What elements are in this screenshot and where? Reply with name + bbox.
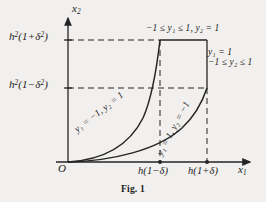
annotation-right-boundary: y₁ = 1 −1 ≤ y₂ ≤ 1 [208,48,252,68]
y-tick-label-lower: h2(1−δ2) [9,79,48,91]
x-tick-label-upper: h(1+δ) [188,165,218,176]
figure-caption: Fig. 1 [0,184,266,194]
x-tick-label-lower: h(1−δ) [138,165,168,176]
origin-label: O [58,163,66,175]
annotation-right-line2: −1 ≤ y₂ ≤ 1 [208,58,252,68]
x-tick-dot-upper [205,160,209,164]
y-axis-label: x2 [72,3,81,16]
y-tick-label-upper: h2(1+δ2) [9,31,48,43]
annotation-top-boundary: −1 ≤ y₁ ≤ 1, y₂ = 1 [146,24,219,34]
x-axis-label: x1 [238,164,247,177]
figure-container: x2 x1 O h2(1+δ2) h2(1−δ2) h(1−δ) h(1+δ) … [0,0,266,202]
x-tick-dot-lower [158,160,162,164]
